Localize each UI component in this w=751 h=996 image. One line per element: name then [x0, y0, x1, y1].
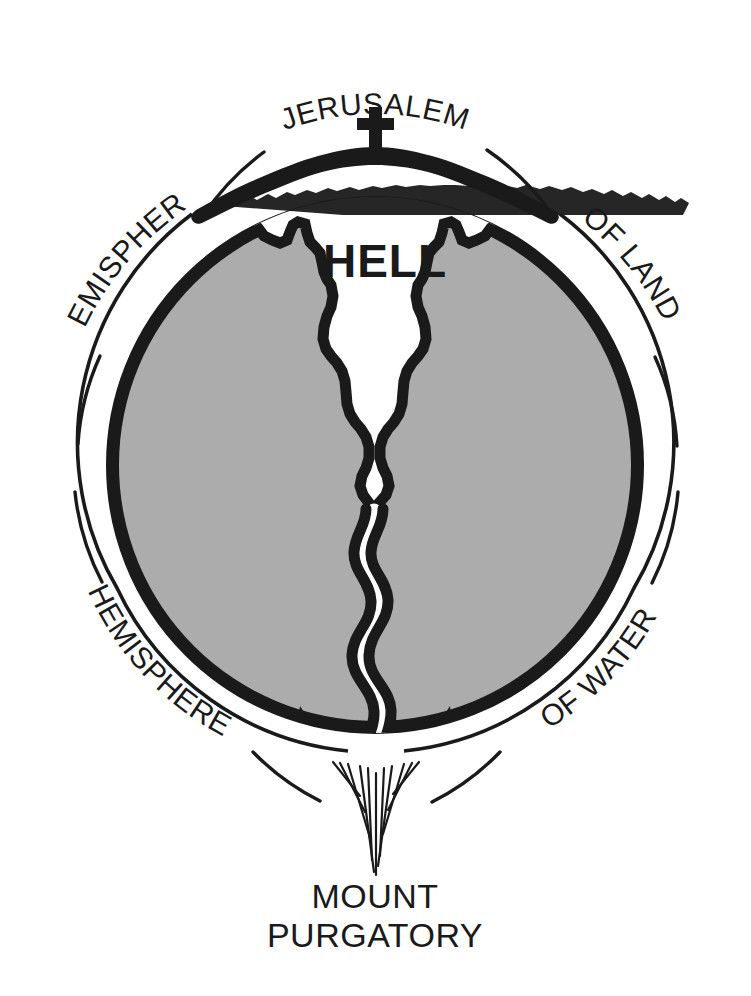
label-purgatory: PURGATORY	[267, 916, 483, 954]
label-mount: MOUNT	[311, 877, 438, 915]
label-hell: HELL	[323, 235, 447, 287]
dante-cosmology-figure: JERUSALEM HEMISPHERE OF LAND HEMISPHERE …	[0, 0, 751, 996]
diagram-canvas: JERUSALEM HEMISPHERE OF LAND HEMISPHERE …	[0, 0, 751, 996]
